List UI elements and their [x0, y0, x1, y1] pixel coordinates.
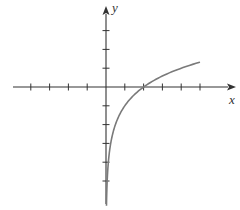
- function-plot: y x: [0, 0, 240, 210]
- tick-marks: [31, 31, 200, 181]
- y-axis-arrow-icon: [103, 6, 110, 15]
- x-axis-arrow-icon: [227, 84, 236, 91]
- y-axis-label: y: [110, 0, 118, 15]
- log-curve: [106, 62, 200, 206]
- x-axis-label: x: [228, 92, 235, 107]
